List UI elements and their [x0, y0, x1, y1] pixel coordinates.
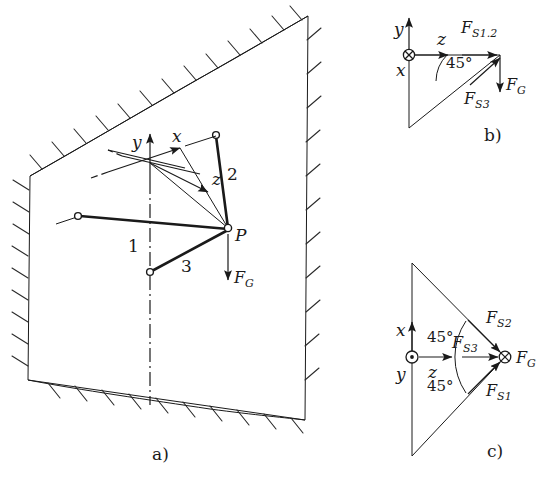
- axis-x-b: x: [396, 49, 415, 80]
- force-fg-label-a: FG: [233, 268, 254, 290]
- joint-2: [213, 132, 220, 139]
- joint-1: [75, 213, 82, 220]
- force-s1-label-c: FS1: [485, 381, 512, 403]
- bar-1-group: 1: [56, 213, 228, 256]
- panel-c-caption: c): [487, 441, 503, 461]
- force-s1-c: FS1: [468, 362, 512, 403]
- point-p-marker: [224, 224, 231, 231]
- force-s3-label-c: FS3: [451, 333, 478, 355]
- force-s3-c: FS3: [451, 333, 498, 357]
- panel-b-caption: b): [484, 125, 502, 145]
- panel-b: y z x 45° FS1.2: [393, 18, 526, 145]
- axis-z-b: z: [415, 29, 448, 55]
- force-s3-label-b: FS3: [463, 89, 490, 111]
- force-fg-label-c: FG: [515, 348, 536, 370]
- axis-x-label-c: x: [396, 320, 406, 340]
- panel-a-caption: a): [152, 444, 169, 464]
- joint-3: [147, 269, 154, 276]
- point-p-label: P: [234, 225, 247, 245]
- axis-y-label-b: y: [393, 19, 404, 39]
- axis-y-c: y: [395, 351, 418, 384]
- panel-c: x z y 45° 45° FS2: [395, 263, 536, 461]
- force-fg-c: FG: [499, 348, 536, 370]
- axis-x-label-b: x: [396, 60, 406, 80]
- force-s12-label-b: FS1.2: [460, 18, 497, 40]
- bar-1-label: 1: [128, 236, 139, 256]
- bar-2-label: 2: [227, 164, 238, 184]
- axis-x-tail-a: [88, 172, 108, 179]
- bar-3-label: 3: [181, 256, 192, 276]
- hatch-left-edge: [12, 180, 29, 366]
- angle-45-upper-label-c: 45°: [427, 328, 454, 346]
- force-fg-label-b: FG: [505, 75, 526, 97]
- axis-x-label-a: x: [172, 126, 182, 146]
- axis-y-label-c: y: [395, 364, 406, 384]
- axis-z-a: z: [150, 163, 222, 192]
- hatch-top-edge: [30, 6, 302, 169]
- angle-45-lower-label-c: 45°: [427, 377, 454, 395]
- axis-y-label-a: y: [131, 132, 142, 152]
- force-s2-label-c: FS2: [485, 308, 512, 330]
- force-s12-b: FS1.2: [460, 18, 497, 55]
- figure-container: y x z: [0, 0, 553, 481]
- force-fg-b: FG: [500, 55, 526, 97]
- figure-svg: y x z: [0, 0, 553, 481]
- axis-z-label-b: z: [436, 29, 447, 49]
- wall-plane-outline: [28, 16, 308, 420]
- bar-3-group: 3: [147, 230, 228, 276]
- angle-45-label-b: 45°: [446, 54, 473, 72]
- panel-a: y x z: [12, 6, 321, 464]
